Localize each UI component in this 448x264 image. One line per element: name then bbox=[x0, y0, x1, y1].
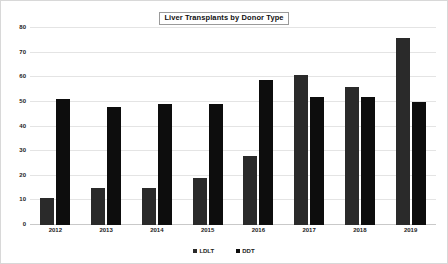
x-axis-tick-label: 2018 bbox=[335, 227, 386, 233]
legend-item-ddt[interactable]: DDT bbox=[236, 248, 254, 254]
bar-group bbox=[182, 28, 233, 225]
x-axis-tick-label: 2017 bbox=[284, 227, 335, 233]
x-axis-tick-label: 2013 bbox=[81, 227, 132, 233]
chart-container: Liver Transplants by Donor Type 01020304… bbox=[0, 0, 448, 264]
bar-ddt-2018[interactable] bbox=[361, 97, 375, 225]
bar-group bbox=[335, 28, 386, 225]
y-axis-tick-label: 10 bbox=[19, 196, 26, 202]
bar-ddt-2014[interactable] bbox=[158, 104, 172, 225]
bar-ddt-2013[interactable] bbox=[107, 107, 121, 225]
y-axis-tick-label: 50 bbox=[19, 98, 26, 104]
bar-group bbox=[233, 28, 284, 225]
bar-ddt-2017[interactable] bbox=[310, 97, 324, 225]
bar-ldlt-2014[interactable] bbox=[142, 188, 156, 225]
legend-swatch-icon bbox=[236, 249, 240, 253]
bar-ldlt-2012[interactable] bbox=[40, 198, 54, 225]
legend-label: DDT bbox=[242, 248, 254, 254]
y-axis-tick-label: 40 bbox=[19, 123, 26, 129]
bar-ddt-2015[interactable] bbox=[209, 104, 223, 225]
y-axis-tick-label: 80 bbox=[19, 24, 26, 30]
y-axis-tick-label: 30 bbox=[19, 147, 26, 153]
bar-ldlt-2017[interactable] bbox=[294, 75, 308, 225]
x-axis-tick-label: 2012 bbox=[30, 227, 81, 233]
x-axis-tick-label: 2015 bbox=[182, 227, 233, 233]
bars-layer bbox=[30, 28, 436, 225]
legend-label: LDLT bbox=[199, 248, 214, 254]
x-axis-tick-label: 2014 bbox=[132, 227, 183, 233]
legend-swatch-icon bbox=[193, 249, 197, 253]
bar-group bbox=[30, 28, 81, 225]
y-axis-tick-label: 70 bbox=[19, 49, 26, 55]
bar-ldlt-2019[interactable] bbox=[396, 38, 410, 225]
chart-title: Liver Transplants by Donor Type bbox=[159, 12, 288, 25]
y-axis-tick-label: 0 bbox=[23, 221, 26, 227]
y-axis-tick-label: 20 bbox=[19, 172, 26, 178]
chart-legend: LDLTDDT bbox=[1, 248, 447, 254]
legend-item-ldlt[interactable]: LDLT bbox=[193, 248, 214, 254]
bar-ldlt-2015[interactable] bbox=[193, 178, 207, 225]
bar-group bbox=[81, 28, 132, 225]
y-axis-tick-label: 60 bbox=[19, 73, 26, 79]
x-axis-labels: 20122013201420152016201720182019 bbox=[30, 227, 436, 233]
x-axis-tick-label: 2016 bbox=[233, 227, 284, 233]
bar-group bbox=[132, 28, 183, 225]
bar-ddt-2019[interactable] bbox=[412, 102, 426, 225]
bar-ddt-2012[interactable] bbox=[56, 99, 70, 225]
bar-ldlt-2016[interactable] bbox=[243, 156, 257, 225]
bar-ldlt-2018[interactable] bbox=[345, 87, 359, 225]
x-axis-tick-label: 2019 bbox=[385, 227, 436, 233]
bar-ldlt-2013[interactable] bbox=[91, 188, 105, 225]
bar-group bbox=[284, 28, 335, 225]
bar-ddt-2016[interactable] bbox=[259, 80, 273, 225]
chart-title-wrapper: Liver Transplants by Donor Type bbox=[1, 6, 447, 25]
bar-group bbox=[385, 28, 436, 225]
plot-area: 01020304050607080 bbox=[30, 28, 436, 225]
